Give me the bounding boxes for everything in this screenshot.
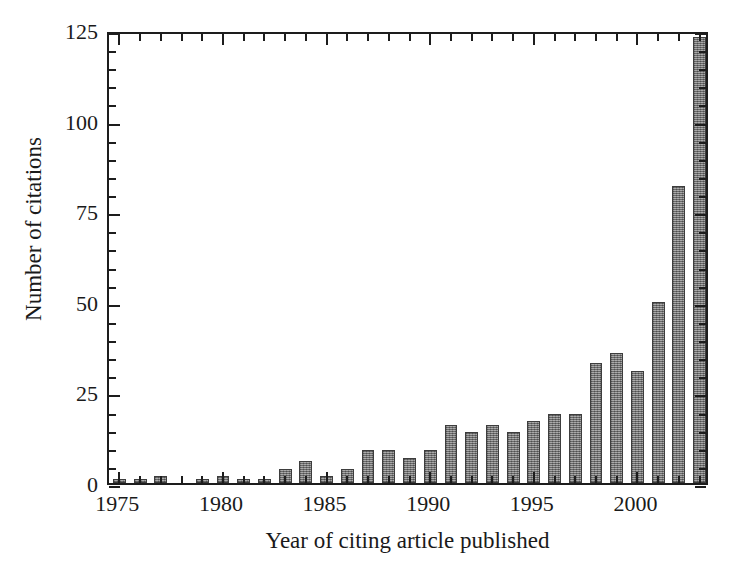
y-major-tick-25 xyxy=(109,395,120,397)
x-minor-tick-1988 xyxy=(388,476,390,483)
x-minor-tick-top-1997 xyxy=(574,34,576,41)
y-minor-tick-right-20 xyxy=(699,414,706,416)
x-tick-label-1995: 1995 xyxy=(510,492,554,516)
y-minor-tick-right-85 xyxy=(699,178,706,180)
x-minor-tick-top-1981 xyxy=(243,34,245,41)
x-minor-tick-top-1994 xyxy=(512,34,514,41)
x-minor-tick-top-1988 xyxy=(388,34,390,41)
x-minor-tick-top-1987 xyxy=(367,34,369,41)
y-tick-label-25: 25 xyxy=(76,383,98,405)
y-major-tick-0 xyxy=(109,486,120,488)
x-minor-tick-1983 xyxy=(284,476,286,483)
x-tick-label-2000: 2000 xyxy=(613,492,657,516)
y-minor-tick-110 xyxy=(109,87,116,89)
bar-2003 xyxy=(693,37,706,483)
y-minor-tick-right-55 xyxy=(699,287,706,289)
x-minor-tick-top-1976 xyxy=(139,34,141,41)
x-minor-tick-1998 xyxy=(595,476,597,483)
x-minor-tick-1976 xyxy=(139,476,141,483)
y-minor-tick-95 xyxy=(109,142,116,144)
x-minor-tick-1989 xyxy=(409,476,411,483)
x-axis-title: Year of citing article published xyxy=(107,528,708,554)
bar-1996 xyxy=(548,414,561,483)
y-minor-tick-right-80 xyxy=(699,196,706,198)
bar-2002 xyxy=(672,186,685,483)
y-tick-label-100: 100 xyxy=(65,112,98,134)
x-minor-tick-2003 xyxy=(699,476,701,483)
y-minor-tick-right-10 xyxy=(699,450,706,452)
bar-1998 xyxy=(590,363,603,483)
y-minor-tick-right-60 xyxy=(699,269,706,271)
x-minor-tick-top-1979 xyxy=(201,34,203,41)
y-minor-tick-20 xyxy=(109,414,116,416)
y-minor-tick-right-90 xyxy=(699,160,706,162)
y-tick-label-75: 75 xyxy=(76,202,98,224)
x-minor-tick-top-1998 xyxy=(595,34,597,41)
y-minor-tick-45 xyxy=(109,323,116,325)
y-major-tick-right-100 xyxy=(695,124,706,126)
x-minor-tick-top-1986 xyxy=(346,34,348,41)
x-minor-tick-top-2001 xyxy=(657,34,659,41)
x-minor-tick-top-1984 xyxy=(305,34,307,41)
y-minor-tick-5 xyxy=(109,468,116,470)
x-minor-tick-1996 xyxy=(554,476,556,483)
y-minor-tick-30 xyxy=(109,377,116,379)
x-minor-tick-1981 xyxy=(243,476,245,483)
x-major-tick-top-1985 xyxy=(326,34,328,45)
y-minor-tick-right-120 xyxy=(699,51,706,53)
y-major-tick-right-50 xyxy=(695,305,706,307)
y-axis-tick-labels: 0255075100125 xyxy=(30,32,98,485)
y-major-tick-right-25 xyxy=(695,395,706,397)
bar-2001 xyxy=(652,302,665,483)
x-minor-tick-top-1999 xyxy=(616,34,618,41)
y-minor-tick-10 xyxy=(109,450,116,452)
x-major-tick-1975 xyxy=(118,472,120,483)
y-minor-tick-55 xyxy=(109,287,116,289)
x-minor-tick-top-1983 xyxy=(284,34,286,41)
y-minor-tick-right-65 xyxy=(699,250,706,252)
x-tick-label-1980: 1980 xyxy=(199,492,243,516)
plot-area xyxy=(107,32,708,485)
y-minor-tick-right-45 xyxy=(699,323,706,325)
y-minor-tick-35 xyxy=(109,359,116,361)
x-major-tick-top-1980 xyxy=(222,34,224,45)
x-minor-tick-top-2002 xyxy=(678,34,680,41)
x-minor-tick-top-1996 xyxy=(554,34,556,41)
x-minor-tick-top-1978 xyxy=(181,34,183,41)
x-minor-tick-top-1989 xyxy=(409,34,411,41)
y-minor-tick-70 xyxy=(109,232,116,234)
x-minor-tick-1977 xyxy=(160,476,162,483)
x-minor-tick-1986 xyxy=(346,476,348,483)
x-major-tick-1995 xyxy=(533,472,535,483)
bar-2000 xyxy=(631,371,644,483)
x-minor-tick-top-1992 xyxy=(471,34,473,41)
x-minor-tick-top-1982 xyxy=(263,34,265,41)
x-minor-tick-top-2003 xyxy=(699,34,701,41)
x-minor-tick-1987 xyxy=(367,476,369,483)
y-minor-tick-right-110 xyxy=(699,87,706,89)
x-minor-tick-1991 xyxy=(450,476,452,483)
bar-1991 xyxy=(445,425,458,483)
y-minor-tick-right-95 xyxy=(699,142,706,144)
y-tick-label-50: 50 xyxy=(76,293,98,315)
x-minor-tick-1999 xyxy=(616,476,618,483)
y-minor-tick-right-105 xyxy=(699,105,706,107)
y-minor-tick-60 xyxy=(109,269,116,271)
y-minor-tick-right-30 xyxy=(699,377,706,379)
x-major-tick-1980 xyxy=(222,472,224,483)
x-minor-tick-2002 xyxy=(678,476,680,483)
y-minor-tick-right-5 xyxy=(699,468,706,470)
x-minor-tick-top-1993 xyxy=(491,34,493,41)
x-minor-tick-1978 xyxy=(181,476,183,483)
x-major-tick-2000 xyxy=(636,472,638,483)
y-minor-tick-65 xyxy=(109,250,116,252)
y-minor-tick-85 xyxy=(109,178,116,180)
y-minor-tick-right-70 xyxy=(699,232,706,234)
bar-1993 xyxy=(486,425,499,483)
x-tick-label-1985: 1985 xyxy=(303,492,347,516)
y-major-tick-75 xyxy=(109,214,120,216)
x-minor-tick-1979 xyxy=(201,476,203,483)
x-major-tick-top-2000 xyxy=(636,34,638,45)
y-minor-tick-right-35 xyxy=(699,359,706,361)
y-minor-tick-right-15 xyxy=(699,432,706,434)
